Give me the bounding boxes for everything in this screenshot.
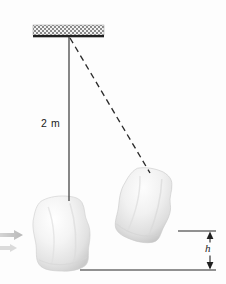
height-arrow-head-up bbox=[207, 232, 214, 240]
hatched-support-bar bbox=[33, 25, 104, 37]
velocity-arrow-glyph-secondary bbox=[0, 244, 17, 252]
rise-height-label: h bbox=[205, 243, 211, 254]
support-hatch-fill bbox=[33, 25, 104, 35]
rod-length-label: 2 m bbox=[41, 118, 60, 129]
velocity-arrow-glyph bbox=[0, 230, 23, 240]
sandbag-body bbox=[111, 163, 179, 247]
physics-diagram-canvas: 2 m h bbox=[0, 0, 226, 284]
swung-rod-dashed bbox=[70, 38, 150, 173]
incoming-velocity-arrow bbox=[0, 230, 23, 252]
support-edge-line bbox=[33, 35, 104, 37]
height-arrow-head-down bbox=[207, 262, 214, 270]
sandbag-at-rest bbox=[31, 194, 93, 273]
diagram-vector-layer bbox=[0, 0, 226, 284]
sandbag-body bbox=[31, 194, 93, 273]
sandbag-swung bbox=[111, 163, 179, 247]
